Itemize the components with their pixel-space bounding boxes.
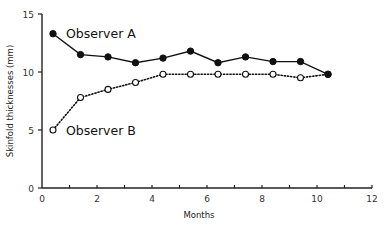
observer-b-line [53,74,328,130]
observer-a-point [187,48,193,54]
x-tick-label: 4 [149,194,155,204]
x-axis-title: Months [183,210,215,220]
observer-b-point [243,71,249,77]
observer-a-point [77,51,83,57]
x-tick-label: 12 [366,194,377,204]
observer-a-point [215,60,221,66]
y-tick-label: 15 [23,10,34,20]
observer-b-point [298,75,304,81]
observer-b-point [215,71,221,77]
skinfold-line-chart: 051015024681012 Observer A Observer B Mo… [0,0,386,229]
x-tick-label: 6 [204,194,210,204]
observer-a-point [132,60,138,66]
y-tick-label: 10 [23,68,35,78]
observer-b-label: Observer B [66,123,136,138]
observer-a-point [270,58,276,64]
y-tick-label: 0 [28,184,34,194]
observer-a-point [160,55,166,61]
y-tick-label: 5 [28,126,34,136]
series-layer [50,31,331,133]
observer-a-point [242,54,248,60]
observer-b-point [270,71,276,77]
observer-a-point [297,58,303,64]
x-tick-label: 2 [94,194,100,204]
observer-b-point [105,86,111,92]
observer-b-point [160,71,166,77]
observer-b-point [50,127,56,133]
observer-b-point [188,71,194,77]
observer-a-point [325,71,331,77]
observer-b-point [133,79,139,85]
observer-b-point [78,95,84,101]
y-axis-title: Skinfold thicknesses (mm) [5,45,15,157]
x-tick-label: 8 [259,194,265,204]
x-tick-label: 10 [311,194,323,204]
x-tick-label: 0 [39,194,45,204]
observer-a-label: Observer A [66,26,136,41]
observer-a-point [50,31,56,37]
observer-a-point [105,54,111,60]
